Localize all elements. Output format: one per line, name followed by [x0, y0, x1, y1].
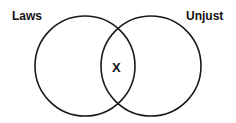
- intersection-mark: X: [112, 61, 121, 74]
- set-label-unjust: Unjust: [186, 10, 223, 22]
- set-label-laws: Laws: [12, 10, 42, 22]
